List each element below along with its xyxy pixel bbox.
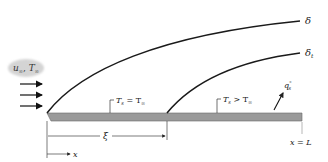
temperature-subscript: ∞ [35, 68, 39, 74]
unheated-region-label: Ts = T∞ [110, 96, 145, 113]
heat-flux-arrow-icon [274, 93, 283, 110]
heated-region-label: Ts > T∞ [217, 95, 252, 113]
svg-text:q"s: q"s [284, 80, 291, 91]
flat-plate [47, 113, 302, 121]
thermal-boundary-layer-curve [167, 53, 300, 113]
svg-text:Ts = T∞: Ts = T∞ [116, 96, 145, 106]
unheated-starting-length-diagram: u∞, T∞ δ δt Ts = T∞ Ts > T∞ q"s [0, 0, 328, 162]
thermal-bl-label: δt [305, 47, 314, 59]
xi-label: ξ [103, 131, 109, 141]
velocity-boundary-layer-curve [47, 21, 300, 113]
svg-text:Ts > T∞: Ts > T∞ [223, 95, 252, 105]
heat-flux-indicator: q"s [274, 80, 291, 110]
free-stream-cloud: u∞, T∞ [8, 59, 44, 77]
flow-arrows [20, 84, 42, 106]
x-axis-label: x [73, 150, 78, 159]
plate-length-label: x = L [290, 138, 312, 147]
velocity-bl-label: δ [305, 15, 311, 26]
